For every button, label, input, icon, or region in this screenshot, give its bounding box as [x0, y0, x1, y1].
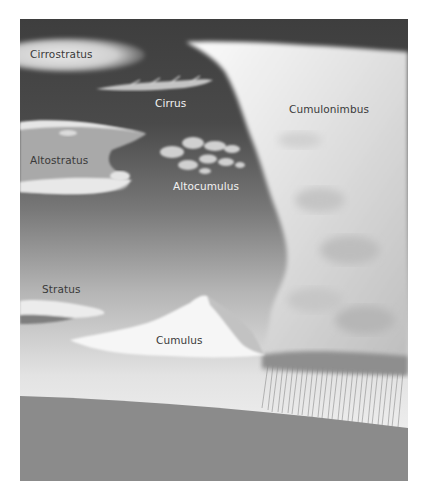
label-cirrostratus: Cirrostratus — [30, 49, 93, 60]
label-altocumulus: Altocumulus — [173, 181, 239, 192]
cloud-types-diagram: Cirrostratus Cirrus Altostratus Altocumu… — [0, 0, 431, 496]
diagram-canvas — [0, 0, 431, 496]
label-altostratus: Altostratus — [30, 155, 88, 166]
label-cumulus: Cumulus — [156, 335, 203, 346]
label-stratus: Stratus — [42, 284, 80, 295]
label-cirrus: Cirrus — [155, 98, 186, 109]
label-cumulonimbus: Cumulonimbus — [289, 104, 369, 115]
